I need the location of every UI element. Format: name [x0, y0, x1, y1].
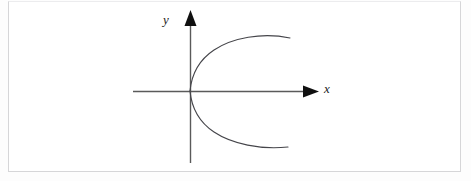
figure-root: y x: [0, 0, 471, 181]
parabola-lower-branch: [190, 91, 288, 148]
x-axis-arrowhead-icon: [303, 86, 319, 98]
x-axis-label: x: [324, 82, 330, 95]
y-axis-label: y: [163, 13, 169, 26]
parabola-upper-branch: [190, 36, 290, 91]
y-axis-arrowhead-icon: [185, 10, 197, 26]
plot-canvas: [0, 0, 471, 181]
